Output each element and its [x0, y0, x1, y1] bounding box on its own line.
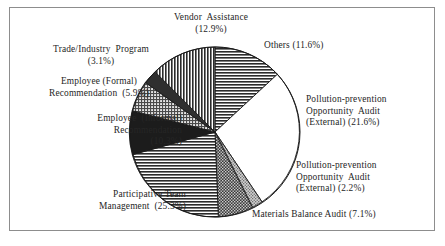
callout-trade-industry-program: Trade/Industry Program (3.1%): [18, 44, 184, 67]
callout-materials-balance-audit: Materials Balance Audit (7.1%): [252, 209, 440, 221]
callout-participative-team-management: Participative Team Management (25.3%): [28, 189, 186, 212]
callout-others: Others (11.6%): [264, 40, 384, 52]
pie-chart-figure: Vendor Assistance (12.9%) Trade/Industry…: [0, 0, 445, 246]
callout-pollution-prevention-audit-external-2-2: Pollution-prevention Opportunity Audit (…: [296, 160, 430, 195]
callout-employee-formal-recommendation: Employee (Formal) Recommendation (5.9%): [14, 76, 184, 99]
callout-pollution-prevention-audit-external-21-6: Pollution-prevention Opportunity Audit (…: [306, 94, 436, 129]
callout-employee-informal-recommendation: Employee (Informal) Recommendation (10.3…: [4, 113, 182, 148]
callout-vendor-assistance: Vendor Assistance (12.9%): [128, 12, 294, 35]
